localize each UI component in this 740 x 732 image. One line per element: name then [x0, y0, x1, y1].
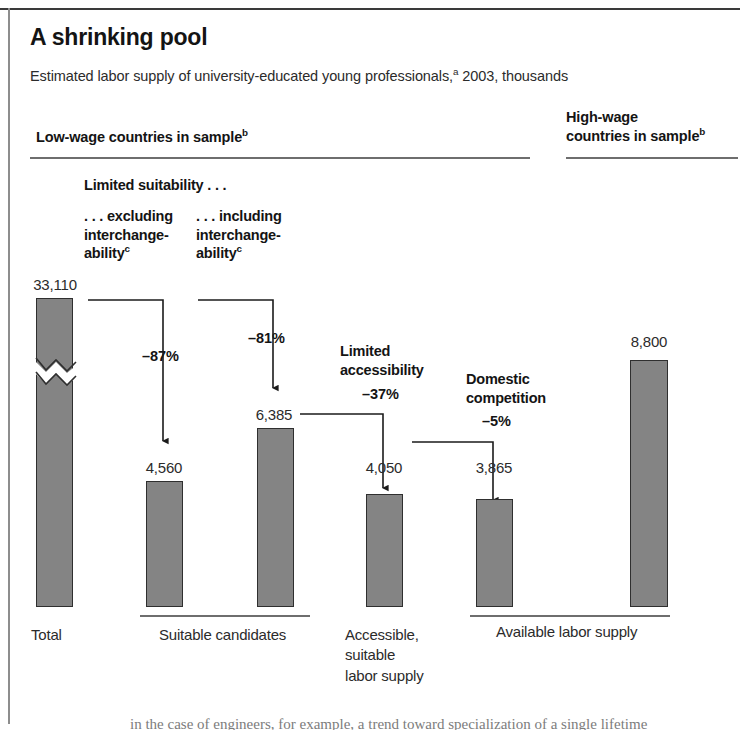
- value-label-suitable-excluding: 4,560: [124, 459, 204, 476]
- category-label-suitable-candidates: Suitable candidates: [159, 625, 286, 645]
- bar-suitable-including: [257, 428, 294, 607]
- subtitle-text-after: 2003, thousands: [458, 68, 568, 84]
- value-label-available-high-wage: 8,800: [609, 333, 689, 350]
- category-rule-available: [470, 615, 670, 617]
- category-label-accessible-line1: Accessible,: [345, 626, 419, 643]
- group-header-low-wage: Low-wage countries in sampleb: [36, 128, 248, 147]
- group-rule-low-wage: [30, 157, 530, 159]
- page-top-rule: [0, 8, 740, 10]
- annotation-limited-accessibility: Limitedaccessibility: [340, 342, 460, 379]
- category-label-accessible-supply: Accessible,suitablelabor supply: [345, 625, 465, 686]
- group-rule-high-wage: [566, 157, 738, 159]
- annotation-domestic-line1: Domestic: [466, 371, 530, 387]
- value-label-total: 33,110: [15, 276, 95, 293]
- group-header-high-wage-line2: countries in sample: [566, 128, 699, 144]
- group-header-low-wage-label: Low-wage countries in sample: [36, 129, 242, 145]
- bar-total: [36, 298, 73, 607]
- annotation-limited-suitability: Limited suitability . . .: [84, 176, 226, 195]
- annotation-including-footnote-marker: c: [237, 243, 242, 254]
- annotation-domestic-competition: Domesticcompetition: [466, 370, 586, 407]
- category-label-total: Total: [31, 625, 62, 645]
- annotation-accessibility-line1: Limited: [340, 343, 390, 359]
- annotation-including-line2: interchange-: [196, 227, 281, 243]
- subtitle-text-before: Estimated labor supply of university-edu…: [30, 68, 453, 84]
- percent-change-87: –87%: [142, 348, 179, 364]
- annotation-excluding-line3: ability: [84, 245, 125, 261]
- value-label-accessible: 4,050: [344, 459, 424, 476]
- annotation-accessibility-line2: accessibility: [340, 362, 424, 378]
- annotation-excluding-line2: interchange-: [84, 227, 169, 243]
- bar-available-high-wage: [630, 360, 668, 607]
- annotation-excluding-interchangeability: . . . excludinginterchange-abilityc: [84, 207, 194, 263]
- value-label-available-low-wage: 3,865: [454, 459, 534, 476]
- category-label-accessible-line2: suitable: [345, 646, 395, 663]
- percent-change-81: –81%: [248, 330, 285, 346]
- annotation-domestic-line2: competition: [466, 390, 546, 406]
- annotation-excluding-footnote-marker: c: [125, 243, 130, 254]
- figure-page: A shrinking pool Estimated labor supply …: [0, 0, 740, 732]
- figure-subtitle: Estimated labor supply of university-edu…: [30, 68, 568, 84]
- group-header-high-wage: High-wagecountries in sampleb: [566, 108, 705, 146]
- annotation-including-interchangeability: . . . includinginterchange-abilityc: [196, 207, 306, 263]
- bar-available-low-wage: [476, 499, 513, 607]
- page-title: A shrinking pool: [30, 24, 207, 51]
- category-rule-suitable: [140, 615, 310, 617]
- page-left-rule: [8, 8, 10, 724]
- annotation-including-line3: ability: [196, 245, 237, 261]
- percent-change-37: –37%: [362, 386, 399, 402]
- bar-suitable-excluding: [146, 481, 183, 607]
- bar-accessible: [366, 494, 403, 607]
- annotation-excluding-line1: . . . excluding: [84, 208, 173, 224]
- category-label-accessible-line3: labor supply: [345, 667, 423, 684]
- page-bleed-text: in the case of engineers, for example, a…: [130, 716, 730, 730]
- group-header-high-wage-footnote-marker: b: [699, 126, 705, 137]
- category-label-available-supply: Available labor supply: [496, 622, 637, 642]
- annotation-including-line1: . . . including: [196, 208, 282, 224]
- group-header-low-wage-footnote-marker: b: [242, 127, 248, 138]
- value-label-suitable-including: 6,385: [234, 406, 314, 423]
- percent-change-5: –5%: [482, 413, 511, 429]
- group-header-high-wage-line1: High-wage: [566, 109, 638, 125]
